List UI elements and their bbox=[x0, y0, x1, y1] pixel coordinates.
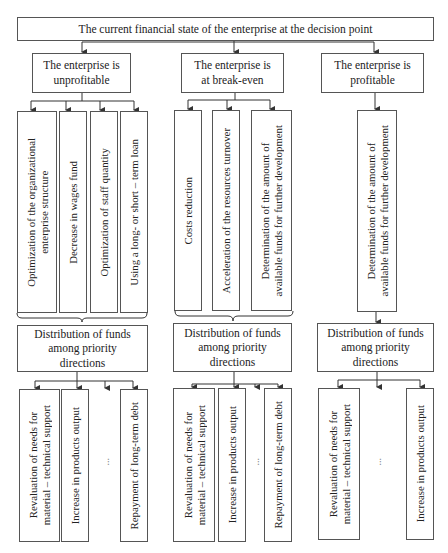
measure-box: Decrease in wages fund bbox=[59, 111, 87, 313]
direction-label: Repayment of long-term debt bbox=[272, 401, 285, 528]
measure-label: Decrease in wages fund bbox=[67, 161, 80, 264]
measure-label: Optimization of the organizational enter… bbox=[25, 138, 50, 287]
ellipsis: ... bbox=[100, 458, 111, 466]
unprofitable-directions-connector bbox=[35, 372, 133, 381]
measure-box: Using a long- or short – term loan bbox=[120, 111, 148, 313]
direction-label: Increase in products output bbox=[414, 405, 427, 522]
measure-box: Optimization of the organizational enter… bbox=[17, 111, 57, 313]
direction-box: Repayment of long-term debt bbox=[120, 389, 148, 542]
measure-box: Acceleration of the resources turnover bbox=[212, 110, 240, 311]
ellipsis: ... bbox=[250, 458, 261, 466]
direction-label: Repayment of long-term debt bbox=[128, 402, 141, 529]
unprofitable-brace bbox=[17, 313, 147, 322]
measure-label: Optimization of staff quantity bbox=[98, 148, 111, 276]
measure-label: Determination of the amount of available… bbox=[259, 125, 284, 297]
measure-label: Determination of the amount of available… bbox=[365, 125, 390, 297]
ellipsis: ... bbox=[372, 458, 383, 466]
state-break-even: The enterprise is at break-even bbox=[181, 53, 284, 93]
measure-label: Using a long- or short – term loan bbox=[128, 139, 141, 286]
distribution-profitable: Distribution of funds among priority dir… bbox=[317, 323, 434, 372]
direction-box: Increase in products output bbox=[218, 388, 246, 542]
distribution-label: Distribution of funds among priority dir… bbox=[184, 326, 280, 370]
state-label: The enterprise is unprofitable bbox=[43, 58, 120, 88]
distribution-break-even: Distribution of funds among priority dir… bbox=[173, 323, 292, 372]
measure-box: Determination of the amount of available… bbox=[357, 110, 397, 312]
direction-label: Increase in products output bbox=[226, 406, 239, 523]
state-label: The enterprise is profitable bbox=[334, 58, 411, 88]
direction-label: Revaluation of needs for material – tech… bbox=[27, 405, 52, 525]
distribution-label: Distribution of funds among priority dir… bbox=[327, 326, 423, 370]
direction-label: Increase in products output bbox=[69, 407, 82, 524]
direction-box: Revaluation of needs for material – tech… bbox=[19, 389, 60, 542]
state-unprofitable: The enterprise is unprofitable bbox=[32, 53, 131, 93]
state-profitable: The enterprise is profitable bbox=[321, 53, 424, 93]
distribution-label: Distribution of funds among priority dir… bbox=[34, 327, 130, 371]
measure-box: Optimization of staff quantity bbox=[90, 111, 118, 313]
root-label: The current financial state of the enter… bbox=[79, 23, 373, 35]
direction-box: Repayment of long-term debt bbox=[264, 388, 292, 542]
distribution-unprofitable: Distribution of funds among priority dir… bbox=[17, 325, 148, 372]
measure-label: Acceleration of the resources turnover bbox=[220, 128, 233, 293]
measure-label: Costs reduction bbox=[182, 177, 195, 244]
direction-label: Revaluation of needs for material – tech… bbox=[182, 405, 207, 525]
unprofitable-measures-connector bbox=[31, 92, 134, 101]
direction-box: Increase in products output bbox=[406, 388, 434, 540]
profitable-directions-connector bbox=[338, 372, 420, 380]
break-even-brace bbox=[175, 311, 293, 321]
break-even-directions-connector bbox=[192, 372, 278, 384]
direction-box: Revaluation of needs for material – tech… bbox=[318, 388, 360, 540]
measure-box: Costs reduction bbox=[174, 110, 202, 311]
direction-box: Revaluation of needs for material – tech… bbox=[173, 388, 215, 542]
direction-box: Increase in products output bbox=[61, 389, 89, 542]
state-label: The enterprise is at break-even bbox=[194, 58, 271, 88]
measure-box: Determination of the amount of available… bbox=[251, 110, 292, 311]
root-node: The current financial state of the enter… bbox=[17, 17, 434, 41]
direction-label: Revaluation of needs for material – tech… bbox=[327, 404, 352, 524]
break-even-measures-connector bbox=[188, 92, 270, 100]
